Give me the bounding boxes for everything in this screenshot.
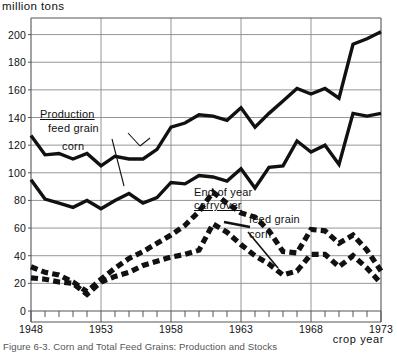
leader-production-corn [112,139,124,186]
y-axis-tick-label: 120 [0,139,26,151]
annotation-production-corn: corn [62,140,84,152]
x-axis-tick-label: 1968 [289,323,333,335]
plot-frame [31,18,381,322]
gridlines [31,18,381,311]
leader-carryover-feedgrain [224,222,250,227]
y-axis-tick-label: 100 [0,167,26,179]
annotation-carryover-corn: corn [249,228,271,240]
y-axis-tick-label: 160 [0,84,26,96]
x-axis-ticks [28,35,381,322]
y-axis-tick-label: 140 [0,112,26,124]
x-axis-tick-label: 1958 [149,323,193,335]
annotation-carryover-title-line2: carryover [194,199,242,211]
y-axis-tick-label: 40 [0,250,26,262]
y-axis-tick-label: 20 [0,277,26,289]
y-axis-tick-label: 0 [0,305,26,317]
y-axis-tick-label: 200 [0,29,26,41]
y-axis-tick-label: 180 [0,56,26,68]
x-axis-tick-label: 1973 [359,323,397,335]
x-axis-tick-label: 1963 [219,323,263,335]
annotation-carryover-title-line1: End of year [194,186,252,198]
annotation-production-title: Production [40,108,95,120]
x-axis-tick-label: 1953 [79,323,123,335]
annotation-production-feed-grain: feed grain [48,122,99,134]
data-series-group [31,32,381,295]
y-axis-tick-label: 60 [0,222,26,234]
series-line-3 [31,224,381,294]
annotation-carryover-feed-grain: feed grain [249,213,300,225]
leader-production-feedgrain-a [128,133,140,146]
x-axis-tick-label: 1948 [9,323,53,335]
figure-caption: Figure 6-3. Corn and Total Feed Grains: … [3,341,277,352]
y-axis-tick-label: 80 [0,194,26,206]
